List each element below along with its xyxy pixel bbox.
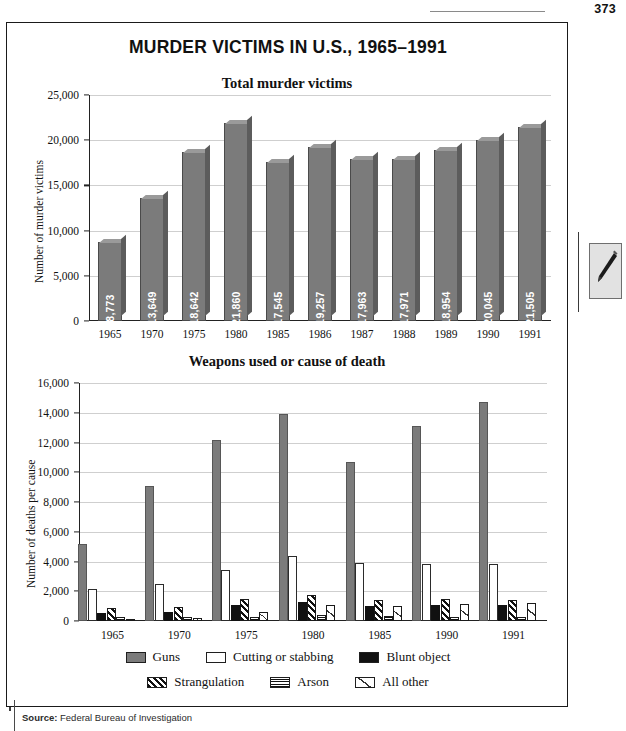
chart2-legend-swatch [355,677,375,688]
chart1-bar-value: 18,642 [188,291,200,324]
chart2-bar [164,612,173,621]
chart2-bar [317,615,326,621]
chart2-bar [498,605,507,621]
chart2-legend-label: All other [382,674,429,690]
chart2-bar [145,486,154,621]
chart1-bar-side [247,116,252,316]
chart1-bar-value: 20,045 [482,291,494,324]
chart2-gridline [79,383,547,384]
chart2-y-tick: 6,000 [7,526,69,538]
chart2-bar [231,605,240,621]
chart1-title: Total murder victims [7,75,567,92]
source-line: Source: Federal Bureau of Investigation [22,712,192,723]
chart2-bar [508,600,517,621]
chart2-bar [431,605,440,621]
chart1-bar-value: 13,649 [146,291,158,324]
chart2-legend-swatch [147,677,167,688]
chart2-bar [88,589,97,621]
chart2-y-tick: 16,000 [7,377,69,389]
chart1-bar-value: 17,963 [356,291,368,324]
chart2-bar [412,426,421,621]
chart1-bar: 19,257 [308,147,332,321]
chart1-bar: 18,642 [182,152,206,321]
chart1-bar-side [331,140,336,316]
chart2-bar [221,570,230,621]
chart2-y-tick: 0 [7,615,69,627]
chart2-bar [489,564,498,621]
chart1-bar-value: 8,773 [104,294,116,321]
chart1-x-tick-label: 1991 [505,328,555,340]
chart2-bar [355,563,364,621]
chart1-bar: 21,505 [518,127,542,321]
chart2-legend-swatch [126,652,146,663]
chart1-bar-side [121,234,126,315]
chart1-bar: 21,860 [224,123,248,321]
chart2-bar [116,617,125,621]
chart2-bar [450,617,459,621]
chart2-bar [250,617,259,621]
chart1-bar-value: 18,954 [440,291,452,324]
page-title: MURDER VICTIMS IN U.S., 1965–1991 [7,37,569,58]
chart2-bar [279,414,288,621]
chart1-plot-area: 05,00010,00015,00020,00025,0008,77319651… [89,95,551,321]
chart2-bar [126,619,135,621]
chart2-bar [174,607,183,621]
chart1-gridline [89,95,551,96]
chart2-y-tick: 10,000 [7,466,69,478]
chart1-bar-side [541,119,546,316]
chart2-x-tick-label: 1991 [502,629,525,641]
chart2-bar [441,599,450,621]
chart1-y-tick: 20,000 [19,134,79,146]
chart2-bar [307,595,316,621]
chart2-title: Weapons used or cause of death [7,353,567,370]
chart2-bar [393,606,402,621]
chart2-legend-item: Guns [126,649,180,665]
chart1-bar: 18,954 [434,150,458,321]
chart2-bar [346,462,355,621]
chart2-legend-label: Cutting or stabbing [233,649,333,665]
chart2-x-tick-label: 1975 [235,629,258,641]
chart2-bar [365,606,374,621]
chart2-bar [97,613,106,621]
chart1-bar: 20,045 [476,140,500,321]
chart1-bar: 17,545 [266,162,290,321]
chart2-legend-label: Blunt object [386,649,450,665]
chart1-bar-side [205,145,210,316]
chart2-bar [212,440,221,621]
chart1-bar-value: 17,971 [398,291,410,324]
source-text: Federal Bureau of Investigation [60,712,192,723]
chart1-bar-side [457,142,462,316]
chart2-legend-row: StrangulationArsonAll other [7,674,569,690]
chart1-y-tick: 15,000 [19,179,79,191]
chart2-x-tick-label: 1985 [368,629,391,641]
chart2-legend-swatch [206,652,226,663]
chart2-x-tick-label: 1970 [168,629,191,641]
chart2-legend-item: Strangulation [147,674,244,690]
chart2-bar [517,617,526,621]
chart1-y-tick: 10,000 [19,225,79,237]
chart2-gridline [79,443,547,444]
chart2-bar [527,603,536,621]
chart1-y-tick: 5,000 [19,270,79,282]
chart2-legend: GunsCutting or stabbingBlunt objectStran… [7,649,569,690]
chart2-y-axis-label: Number of deaths per cause [25,460,37,588]
chart2-x-tick-label: 1965 [101,629,124,641]
chart1-bar-value: 19,257 [314,291,326,324]
chart1-bar-side [289,155,294,316]
chart2-x-tick-label: 1980 [302,629,325,641]
chart2-bar [193,618,202,621]
chart1-bar-side [163,190,168,316]
chart1-bar: 17,963 [350,159,374,321]
chart1-bar: 8,773 [98,242,122,321]
margin-rule [578,232,579,312]
page-number: 373 [594,2,616,16]
chart2-gridline [79,413,547,414]
chart2-gridline [79,472,547,473]
chart2-bar [107,608,116,621]
pencil-icon [589,243,622,299]
chart2-legend-item: Cutting or stabbing [206,649,333,665]
chart2-legend-item: Arson [270,674,329,690]
chart1-y-tick: 0 [19,315,79,327]
chart2-plot-area: 02,0004,0006,0008,00010,00012,00014,0001… [79,383,547,621]
chart1-bar-value: 21,505 [524,291,536,324]
